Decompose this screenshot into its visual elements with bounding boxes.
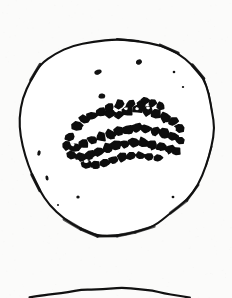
cell-illustration-figure: Cell in metaphase Hand-drawn ink illustr…: [0, 0, 232, 298]
chromosome-blob-57: [157, 102, 164, 110]
granule-2-tail: [98, 95, 102, 98]
granule-8: [76, 195, 79, 198]
chromosome-blob-17: [79, 140, 88, 148]
chromosome-blob-29: [67, 151, 76, 159]
chromosome-blob-51: [105, 104, 113, 112]
granule-3-tail: [136, 61, 140, 64]
granule-9: [172, 196, 175, 199]
granule-4: [173, 71, 176, 73]
granule-5: [182, 86, 184, 88]
chromosome-blob-41: [172, 148, 180, 155]
illustration-canvas: [0, 0, 232, 298]
granule-1-tail: [95, 72, 100, 75]
granule-10: [57, 204, 59, 206]
